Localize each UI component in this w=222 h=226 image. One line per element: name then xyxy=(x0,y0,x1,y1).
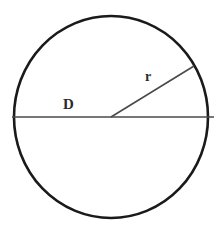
radius-line xyxy=(111,66,194,117)
diameter-label: D xyxy=(63,97,74,112)
radius-label: r xyxy=(145,70,151,84)
circle-diagram-canvas xyxy=(0,0,222,226)
circle-diagram: D r xyxy=(0,0,222,226)
